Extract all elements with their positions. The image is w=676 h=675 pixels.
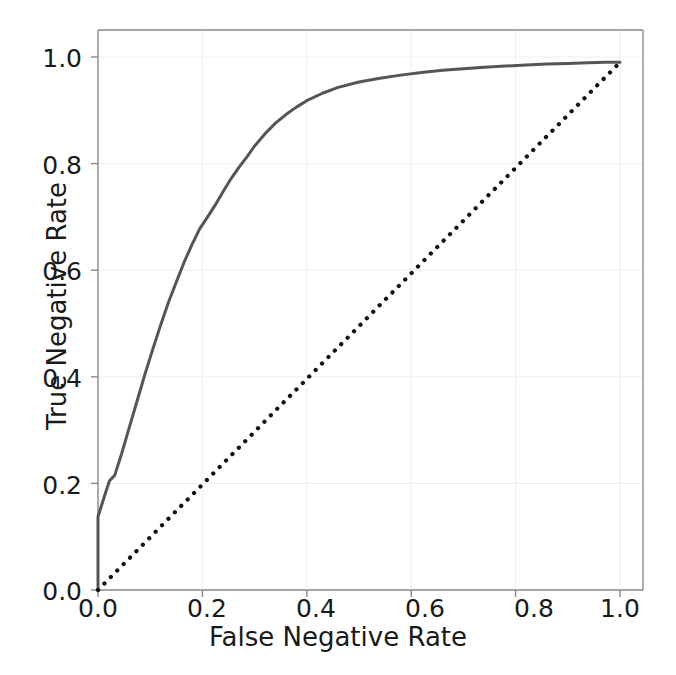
x-axis-label: False Negative Rate bbox=[0, 622, 676, 652]
ytick-label-1: 0.2 bbox=[6, 471, 82, 500]
ytick-label-5: 1.0 bbox=[6, 44, 82, 73]
xtick-label-1: 0.2 bbox=[167, 594, 247, 623]
xtick-label-2: 0.4 bbox=[276, 594, 356, 623]
xtick-label-5: 1.0 bbox=[580, 594, 660, 623]
y-axis-label: True Negative Rate bbox=[42, 182, 72, 430]
xtick-label-3: 0.6 bbox=[385, 594, 465, 623]
roc-figure: 0.0 0.2 0.4 0.6 0.8 1.0 0.0 0.2 0.4 0.6 … bbox=[0, 0, 676, 675]
ytick-label-4: 0.8 bbox=[6, 151, 82, 180]
xtick-label-4: 0.8 bbox=[494, 594, 574, 623]
plot-canvas bbox=[0, 0, 676, 675]
xtick-label-0: 0.0 bbox=[58, 594, 138, 623]
